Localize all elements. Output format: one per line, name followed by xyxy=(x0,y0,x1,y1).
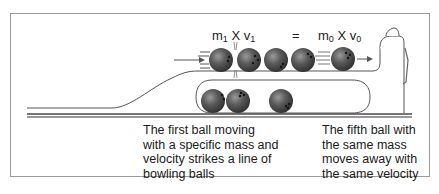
equation-equals: = xyxy=(292,28,300,43)
velocity-subscript: 0 xyxy=(356,34,361,44)
velocity-subscript: 1 xyxy=(250,34,255,44)
caption-line: with a specific mass and xyxy=(143,138,278,153)
top-row-balls xyxy=(209,48,315,72)
mass-subscript: 0 xyxy=(329,34,334,44)
incoming-arrow-icon xyxy=(174,52,210,68)
caption-line: bowling balls xyxy=(143,167,278,182)
caption-fifth-ball: The fifth ball with the same mass moves … xyxy=(322,123,419,181)
outgoing-arrow-icon xyxy=(357,56,373,62)
departing-ball xyxy=(315,47,355,71)
caption-line: the same velocity xyxy=(322,167,419,182)
return-track-balls xyxy=(201,89,293,113)
ball-return-hood xyxy=(380,28,408,113)
caption-first-ball: The first ball moving with a specific ma… xyxy=(143,123,278,181)
impact-marks-icon xyxy=(234,42,237,78)
equation-left: m1 X v1 xyxy=(212,28,255,44)
multiply-symbol: X xyxy=(231,28,240,43)
caption-line: moves away with xyxy=(322,152,419,167)
caption-line: the same mass xyxy=(322,138,419,153)
equals-symbol: = xyxy=(292,28,300,43)
mass-subscript: 1 xyxy=(223,34,228,44)
base-rail xyxy=(27,113,412,118)
caption-line: The first ball moving xyxy=(143,123,278,138)
equation-right: m0 X v0 xyxy=(318,28,361,44)
caption-line: velocity strikes a line of xyxy=(143,152,278,167)
caption-line: The fifth ball with xyxy=(322,123,419,138)
mass-symbol: m xyxy=(212,28,223,43)
mass-symbol: m xyxy=(318,28,329,43)
multiply-symbol: X xyxy=(337,28,346,43)
